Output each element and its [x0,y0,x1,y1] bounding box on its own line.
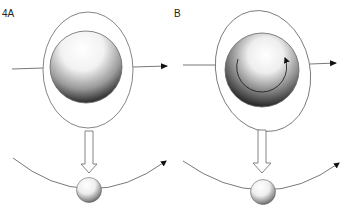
trajectory-arrow-out-a [133,66,167,67]
trajectory-line-in-a [12,68,43,69]
ball-b [251,180,276,205]
down-arrow-a [81,131,97,173]
diagram-canvas [0,0,341,212]
trajectory-arrow-out-b [310,63,336,64]
panel-b [183,2,339,205]
panel-a [12,12,167,203]
down-arrow-b [253,130,271,173]
ball-a [77,178,102,203]
